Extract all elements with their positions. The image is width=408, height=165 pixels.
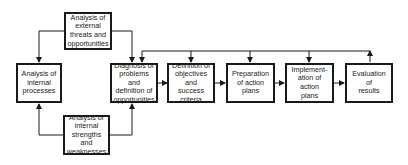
- box-label: Definition of objectives and success cri…: [170, 62, 212, 105]
- box-label: Implement- ation of action plans: [288, 66, 331, 100]
- box-preparation: Preparation of action plans: [226, 63, 275, 103]
- box-definition: Definition of objectives and success cri…: [167, 63, 215, 103]
- box-label: Evaluation of results: [352, 70, 386, 96]
- box-label: Analysis of internal processes: [22, 70, 57, 96]
- box-external-analysis: Analysis of external threats and opportu…: [64, 12, 112, 50]
- box-implementation: Implement- ation of action plans: [285, 63, 334, 103]
- box-label: Analysis of external threats and opportu…: [67, 14, 108, 48]
- box-label: Diagnosis of problems and definition of …: [113, 62, 155, 105]
- box-internal-processes: Analysis of internal processes: [16, 63, 62, 103]
- box-internal-strengths: Analysis of internal strengths and weakn…: [63, 115, 110, 155]
- box-label: Analysis of internal strengths and weakn…: [66, 114, 107, 157]
- box-evaluation: Evaluation of results: [345, 63, 393, 103]
- box-diagnosis: Diagnosis of problems and definition of …: [110, 63, 158, 103]
- box-label: Preparation of action plans: [232, 70, 269, 96]
